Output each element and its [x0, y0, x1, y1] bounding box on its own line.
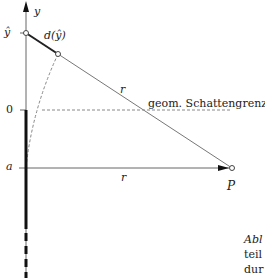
r-label-upper: r [120, 84, 125, 95]
p-point-icon [230, 166, 235, 171]
a-label: a [6, 161, 13, 172]
zero-label: 0 [6, 104, 13, 115]
shadow-boundary-label: geom. Schattengrenze [148, 98, 265, 109]
caption-line-3: dur [244, 264, 263, 275]
y-axis-label: y [34, 6, 40, 17]
r-label-lower: r [121, 172, 126, 183]
y-axis-arrow-icon [23, 1, 29, 12]
dashed-arc [26, 54, 58, 168]
arc-point-icon [56, 52, 61, 57]
caption-line-1: Abl [244, 234, 263, 245]
p-label: P [227, 180, 235, 192]
arrow-to-p-icon [218, 165, 229, 171]
yhat-point-icon [24, 31, 29, 36]
diagram-canvas [0, 0, 265, 278]
caption-line-2: teil [244, 249, 262, 260]
yhat-label: ŷ [4, 27, 10, 38]
distance-label: d(ŷ) [44, 30, 66, 41]
